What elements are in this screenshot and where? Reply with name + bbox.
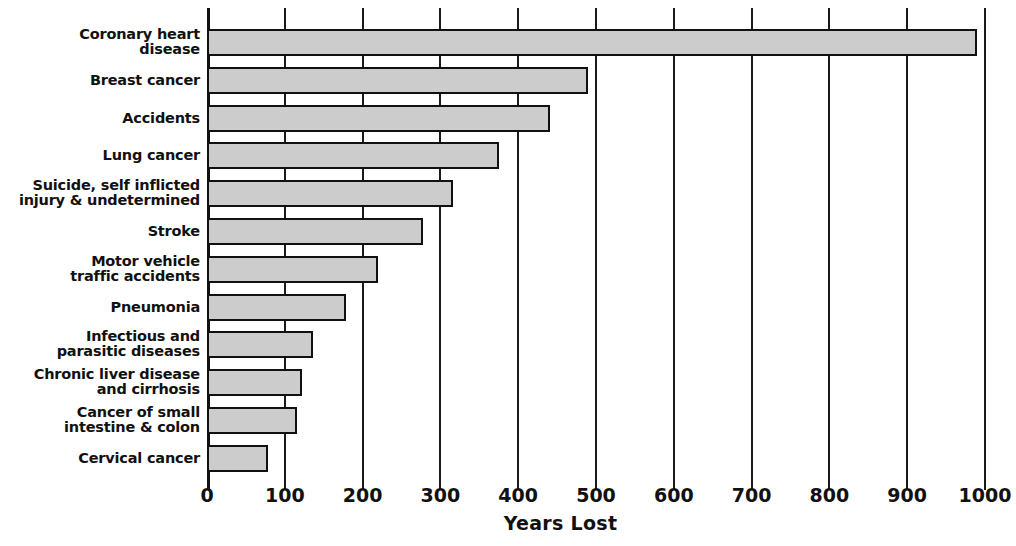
bar-row	[207, 403, 1016, 441]
category-label: Lung cancer	[0, 148, 200, 163]
bar-row	[207, 327, 1016, 365]
bar-row	[207, 252, 1016, 290]
bar[interactable]	[207, 180, 453, 207]
bar[interactable]	[207, 256, 378, 283]
bar[interactable]	[207, 407, 297, 434]
category-label-line1: Stroke	[148, 223, 200, 239]
category-label-line1: Cervical cancer	[78, 450, 200, 466]
x-tick-label-500: 500	[576, 484, 616, 506]
bar[interactable]	[207, 105, 550, 132]
category-label: Motor vehicletraffic accidents	[0, 254, 200, 284]
bar[interactable]	[207, 142, 499, 169]
bar-row	[207, 441, 1016, 479]
category-label-line2: disease	[0, 42, 200, 57]
category-label-line1: Motor vehicle	[91, 253, 200, 269]
category-label-line1: Suicide, self inflicted	[32, 177, 200, 193]
category-label: Infectious andparasitic diseases	[0, 329, 200, 359]
category-label-line2: traffic accidents	[0, 269, 200, 284]
bar-row	[207, 176, 1016, 214]
x-tick-label-800: 800	[810, 484, 850, 506]
category-label-line1: Accidents	[122, 110, 200, 126]
x-tick-label-400: 400	[498, 484, 538, 506]
x-tick-label-700: 700	[732, 484, 772, 506]
category-label: Accidents	[0, 111, 200, 126]
bar[interactable]	[207, 29, 977, 56]
x-axis-title: Years Lost	[0, 512, 1016, 534]
bar[interactable]	[207, 218, 423, 245]
category-label: Cervical cancer	[0, 451, 200, 466]
category-label-line1: Lung cancer	[103, 147, 200, 163]
bar-row	[207, 290, 1016, 328]
x-axis-title-text: Years Lost	[504, 512, 618, 534]
category-labels: Coronary heartdiseaseBreast cancerAccide…	[0, 25, 200, 480]
category-label: Pneumonia	[0, 300, 200, 315]
category-label-line2: injury & undetermined	[0, 193, 200, 208]
category-label: Coronary heartdisease	[0, 27, 200, 57]
bar[interactable]	[207, 369, 302, 396]
category-label-line1: Coronary heart	[79, 26, 200, 42]
x-tick-label-0: 0	[200, 484, 213, 506]
x-tick-label-100: 100	[265, 484, 305, 506]
category-label: Cancer of smallintestine & colon	[0, 405, 200, 435]
bars-layer	[207, 25, 1016, 480]
category-label-line2: and cirrhosis	[0, 382, 200, 397]
x-tick-label-900: 900	[887, 484, 927, 506]
bar-chart: Coronary heartdiseaseBreast cancerAccide…	[0, 0, 1016, 546]
bar-row	[207, 214, 1016, 252]
category-label: Breast cancer	[0, 73, 200, 88]
category-label: Chronic liver diseaseand cirrhosis	[0, 367, 200, 397]
x-tick-label-1000: 1000	[959, 484, 1012, 506]
bar-row	[207, 101, 1016, 139]
bar-row	[207, 63, 1016, 101]
x-tick-label-600: 600	[654, 484, 694, 506]
bar-row	[207, 365, 1016, 403]
bar[interactable]	[207, 331, 313, 358]
category-label-line1: Pneumonia	[111, 299, 200, 315]
category-label: Stroke	[0, 224, 200, 239]
category-label-line1: Cancer of small	[77, 404, 200, 420]
bar-row	[207, 25, 1016, 63]
x-tick-label-300: 300	[421, 484, 461, 506]
bar[interactable]	[207, 445, 268, 472]
category-label-line1: Breast cancer	[90, 72, 200, 88]
category-label-line1: Infectious and	[86, 328, 200, 344]
bar[interactable]	[207, 294, 346, 321]
x-tick-label-200: 200	[343, 484, 383, 506]
category-label-line2: intestine & colon	[0, 420, 200, 435]
category-label: Suicide, self inflictedinjury & undeterm…	[0, 178, 200, 208]
category-label-line1: Chronic liver disease	[34, 366, 200, 382]
bar-row	[207, 138, 1016, 176]
category-label-line2: parasitic diseases	[0, 344, 200, 359]
bar[interactable]	[207, 67, 588, 94]
